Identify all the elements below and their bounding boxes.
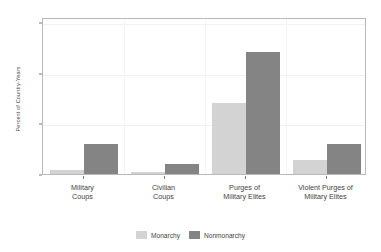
x-axis-category-label: Violent Purges ofMilitary Elites (298, 183, 353, 202)
legend-swatch (189, 231, 200, 239)
x-axis-category-label: Purges ofMilitary Elites (223, 183, 265, 202)
bar-monarchy (131, 172, 165, 174)
x-axis-label-line: Military (71, 183, 94, 192)
bar-chart: Percent of Country-Years 0102030 Militar… (0, 0, 381, 252)
x-axis-category-label: CivilianCoups (152, 183, 175, 202)
legend-label: Monarchy (151, 232, 180, 239)
x-tick-mark (245, 176, 246, 179)
gridline (43, 75, 365, 76)
x-tick-mark (326, 176, 327, 179)
legend-label: Nonmonarchy (204, 232, 245, 239)
x-axis-category-label: MilitaryCoups (71, 183, 94, 202)
legend-item: Monarchy (136, 231, 180, 239)
bar-monarchy (293, 160, 327, 174)
category-separator (286, 19, 287, 174)
legend-item: Nonmonarchy (189, 231, 245, 239)
x-axis-label-line: Civilian (152, 183, 175, 192)
x-axis-label-line: Purges of (223, 183, 265, 192)
bar-monarchy (212, 103, 246, 174)
legend-swatch (136, 231, 147, 239)
bar-nonmonarchy (246, 52, 280, 174)
plot-frame (42, 18, 366, 175)
y-axis-title: Percent of Country-Years (15, 29, 21, 169)
chart-legend: MonarchyNonmonarchy (0, 231, 381, 239)
plot-area (43, 19, 365, 174)
gridline (43, 24, 365, 25)
gridline (43, 125, 365, 126)
category-separator (205, 19, 206, 174)
bar-nonmonarchy (84, 144, 118, 174)
x-axis-label-line: Military Elites (223, 192, 265, 201)
bar-monarchy (50, 170, 84, 174)
x-axis-label-line: Violent Purges of (298, 183, 353, 192)
x-tick-mark (164, 176, 165, 179)
x-axis-label-line: Military Elites (298, 192, 353, 201)
x-tick-mark (83, 176, 84, 179)
x-axis-label-line: Coups (71, 192, 94, 201)
x-axis-label-line: Coups (152, 192, 175, 201)
category-separator (124, 19, 125, 174)
bar-nonmonarchy (327, 144, 361, 174)
bar-nonmonarchy (165, 164, 199, 174)
